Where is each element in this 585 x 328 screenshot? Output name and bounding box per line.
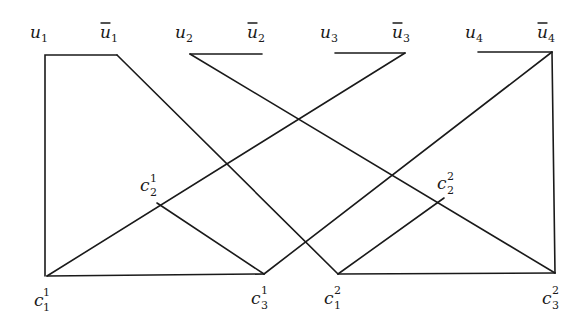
- svg-text:c: c: [542, 288, 552, 308]
- label-u1: u1: [30, 22, 48, 45]
- svg-text:1: 1: [43, 301, 50, 314]
- svg-text:4: 4: [548, 32, 555, 45]
- label-ubar3: u3: [392, 22, 410, 45]
- label-c2-2: c22: [437, 170, 454, 197]
- edge-u1-to-c1-1: [45, 55, 117, 276]
- svg-text:2: 2: [186, 32, 193, 45]
- label-c1-2: c21: [324, 284, 341, 312]
- label-c3-1: c13: [251, 284, 268, 312]
- svg-text:c: c: [324, 288, 334, 308]
- svg-text:1: 1: [334, 299, 341, 312]
- label-u4: u4: [465, 22, 483, 45]
- edge-u2-to-c3-2: [190, 54, 555, 273]
- label-c2-1: c12: [140, 172, 157, 199]
- edge-c1-1-to-c3-1: [47, 274, 264, 276]
- svg-text:3: 3: [552, 299, 559, 312]
- svg-text:u: u: [175, 22, 186, 42]
- edge-c1-2-to-c3-2: [338, 273, 555, 274]
- svg-text:u: u: [392, 22, 403, 42]
- svg-text:c: c: [437, 173, 447, 193]
- svg-text:1: 1: [41, 32, 48, 45]
- label-ubar1: u1: [100, 22, 118, 45]
- svg-text:1: 1: [150, 172, 157, 185]
- edge-c2-1-to-c3-1: [157, 203, 264, 274]
- svg-text:u: u: [320, 22, 331, 42]
- svg-text:4: 4: [476, 32, 483, 45]
- svg-text:u: u: [537, 22, 548, 42]
- label-c3-2: c23: [542, 284, 559, 312]
- svg-text:2: 2: [447, 170, 454, 183]
- label-ubar2: u2: [247, 22, 265, 45]
- edge-ubar4-to-c3-1: [264, 52, 552, 274]
- svg-text:u: u: [465, 22, 476, 42]
- reduction-diagram: u1 u1 u2 u2 u3 u3 u4 u4 c11 c12 c13 c21 …: [0, 0, 585, 328]
- svg-text:c: c: [251, 288, 261, 308]
- edge-c1-2-to-c2-2: [338, 198, 444, 274]
- svg-text:2: 2: [150, 186, 157, 199]
- svg-text:u: u: [247, 22, 258, 42]
- svg-text:c: c: [140, 175, 150, 195]
- edge-ubar3-to-c1-1: [47, 53, 405, 276]
- label-ubar4: u4: [537, 22, 555, 45]
- svg-text:1: 1: [43, 286, 50, 299]
- svg-text:u: u: [30, 22, 41, 42]
- svg-text:1: 1: [111, 32, 118, 45]
- label-u2: u2: [175, 22, 193, 45]
- label-u3: u3: [320, 22, 338, 45]
- svg-text:2: 2: [258, 32, 265, 45]
- svg-text:3: 3: [331, 32, 338, 45]
- svg-text:3: 3: [261, 299, 268, 312]
- svg-text:2: 2: [334, 284, 341, 297]
- svg-text:2: 2: [552, 284, 559, 297]
- svg-text:3: 3: [403, 32, 410, 45]
- edge-ubar4-to-c3-2: [552, 52, 555, 273]
- label-c1-1: c11: [34, 286, 50, 314]
- svg-text:1: 1: [261, 284, 268, 297]
- svg-text:2: 2: [447, 184, 454, 197]
- svg-text:u: u: [100, 22, 111, 42]
